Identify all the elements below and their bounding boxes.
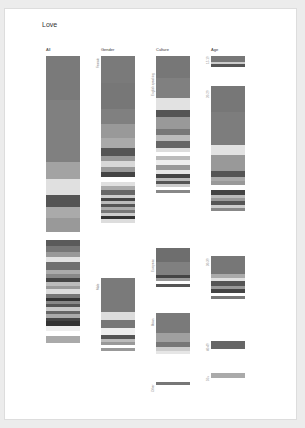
column-label-culture: Culture bbox=[156, 47, 169, 52]
group-label-15-19: 15-19 bbox=[206, 56, 210, 64]
group-label-european: European bbox=[151, 259, 155, 272]
bar-age-50-plus bbox=[211, 373, 245, 378]
group-label-asian: Asian bbox=[151, 318, 155, 326]
chart-title: Love bbox=[42, 21, 57, 28]
group-label-50-plus: 50+ bbox=[206, 376, 210, 381]
bar-culture-european bbox=[156, 248, 190, 287]
bar-age-30-39 bbox=[211, 256, 245, 299]
bar-age-15-19 bbox=[211, 56, 245, 67]
group-label-40-49: 40-49 bbox=[206, 343, 210, 351]
bar-culture-asian bbox=[156, 313, 190, 354]
bar-all-bottom bbox=[46, 240, 80, 343]
group-label-male: Male bbox=[96, 283, 100, 290]
group-label-english-speaking: English speaking bbox=[151, 73, 155, 96]
bar-gender-male bbox=[101, 278, 135, 351]
group-label-other: Other bbox=[151, 384, 155, 392]
group-label-20-29: 20-29 bbox=[206, 90, 210, 98]
bar-age-40-49 bbox=[211, 341, 245, 349]
bar-culture-other bbox=[156, 382, 190, 385]
bar-culture-english bbox=[156, 56, 190, 193]
bar-gender-female bbox=[101, 56, 135, 223]
column-label-gender: Gender bbox=[101, 47, 114, 52]
bar-all-top bbox=[46, 56, 80, 232]
bar-age-20-29 bbox=[211, 86, 245, 211]
group-label-female: Female bbox=[96, 58, 100, 68]
group-label-30-39: 30-39 bbox=[206, 258, 210, 266]
column-label-age: Age bbox=[211, 47, 218, 52]
column-label-all: All bbox=[46, 47, 50, 52]
